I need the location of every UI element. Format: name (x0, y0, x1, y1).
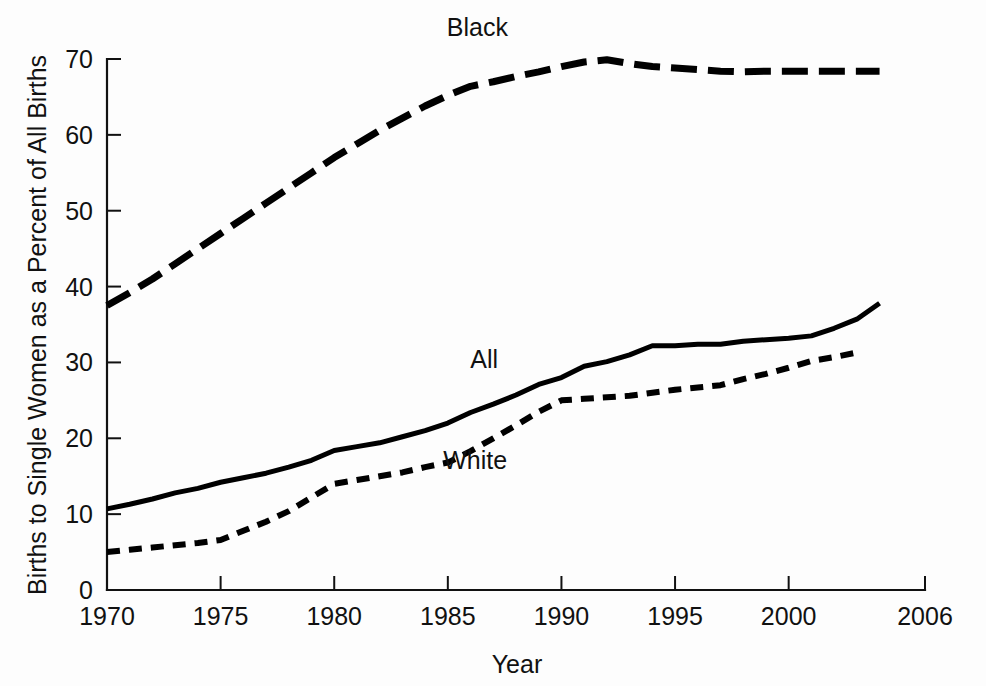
y-tick-label: 70 (65, 45, 93, 73)
x-tick-label: 1990 (534, 602, 590, 630)
y-tick-label: 60 (65, 121, 93, 149)
line-chart: Births to Single Women as a Percent of A… (0, 0, 986, 686)
y-tick-label: 30 (65, 348, 93, 376)
x-tick-label: 1970 (79, 602, 135, 630)
x-tick-label: 1985 (420, 602, 476, 630)
series-line-all (107, 303, 880, 509)
series-label-all: All (470, 345, 498, 373)
x-axis-title-label: Year (492, 650, 543, 678)
x-axis-ticks: 19701975198019851990199520002006 (79, 576, 953, 630)
y-axis-title-label: Births to Single Women as a Percent of A… (23, 55, 51, 595)
data-series-group (107, 60, 880, 552)
x-tick-label: 1980 (306, 602, 362, 630)
y-tick-label: 0 (79, 576, 93, 604)
series-line-black (107, 60, 880, 306)
x-tick-label: 1995 (647, 602, 703, 630)
x-tick-label: 2000 (761, 602, 817, 630)
y-tick-label: 10 (65, 500, 93, 528)
series-label-black: Black (447, 13, 509, 41)
x-tick-label: 2006 (897, 602, 953, 630)
series-label-white: White (443, 446, 507, 474)
y-tick-label: 50 (65, 197, 93, 225)
y-axis-ticks: 010203040506070 (65, 45, 121, 604)
y-axis-title: Births to Single Women as a Percent of A… (23, 55, 51, 595)
y-tick-label: 40 (65, 273, 93, 301)
chart-figure: Births to Single Women as a Percent of A… (0, 0, 986, 686)
x-tick-label: 1975 (193, 602, 249, 630)
y-tick-label: 20 (65, 424, 93, 452)
axis-lines (107, 59, 925, 590)
